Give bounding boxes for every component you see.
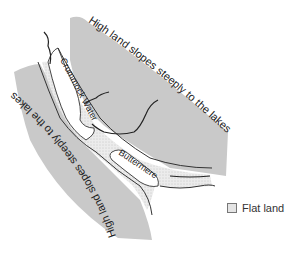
- legend: Flat land: [227, 202, 284, 214]
- flat-land-swatch-icon: [227, 203, 237, 213]
- valley-map: High land slopes steeply to the lakes Hi…: [0, 0, 287, 258]
- legend-label-flat-land: Flat land: [242, 202, 284, 214]
